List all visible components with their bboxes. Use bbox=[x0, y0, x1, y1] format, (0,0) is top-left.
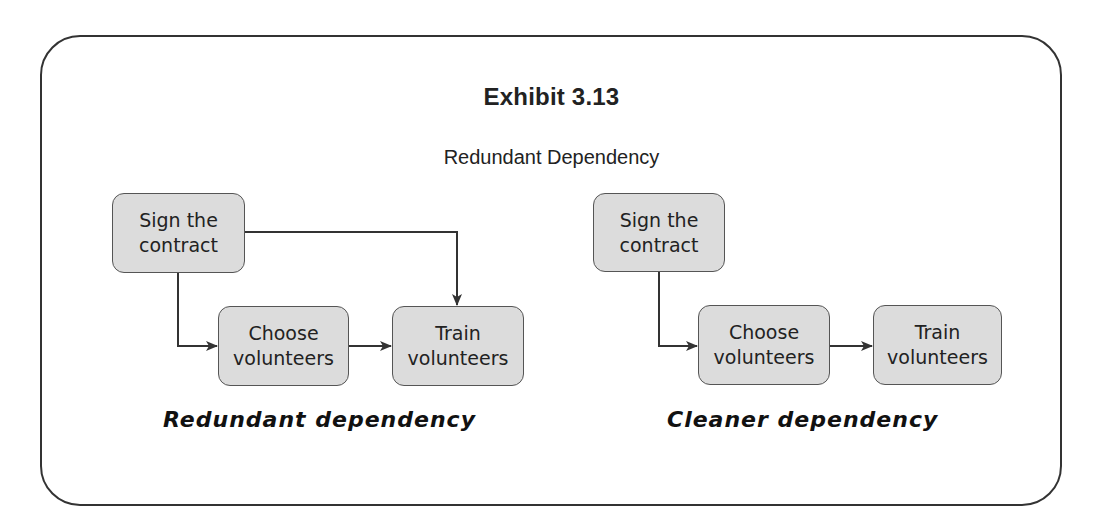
edge-sign-to-choose-left bbox=[178, 273, 217, 346]
node-train-volunteers-right: Train volunteers bbox=[873, 305, 1002, 385]
caption-cleaner-dependency: Cleaner dependency bbox=[667, 407, 938, 432]
node-sign-contract-left: Sign the contract bbox=[112, 193, 245, 273]
edge-sign-to-choose-right bbox=[659, 272, 697, 346]
node-choose-volunteers-left: Choose volunteers bbox=[218, 306, 349, 386]
node-choose-volunteers-right: Choose volunteers bbox=[698, 305, 830, 385]
node-train-volunteers-left: Train volunteers bbox=[392, 306, 524, 386]
caption-redundant-dependency: Redundant dependency bbox=[163, 407, 476, 432]
edge-sign-to-train-left bbox=[245, 232, 457, 305]
node-sign-contract-right: Sign the contract bbox=[593, 193, 725, 272]
